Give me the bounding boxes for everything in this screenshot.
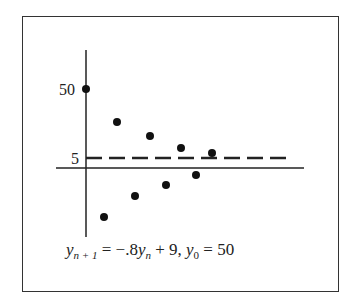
equation-caption: yn + 1 = −.8yn + 9, y0 = 50 <box>66 240 234 261</box>
y-tick-5: 5 <box>71 150 79 167</box>
y-tick-50: 50 <box>59 81 75 98</box>
data-points <box>82 85 216 221</box>
